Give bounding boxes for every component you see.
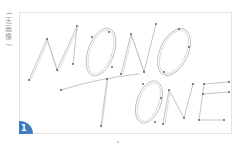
side-label: ( 无 画 像 ) <box>2 10 14 48</box>
paren-close: ) <box>4 43 11 46</box>
side-label-char: 无 <box>5 17 12 25</box>
paren-open: ( <box>4 12 11 15</box>
monotone-lettering-art <box>19 12 232 134</box>
side-label-char: 像 <box>5 33 12 41</box>
side-label-char: 画 <box>5 25 12 33</box>
page-dot <box>117 141 119 143</box>
